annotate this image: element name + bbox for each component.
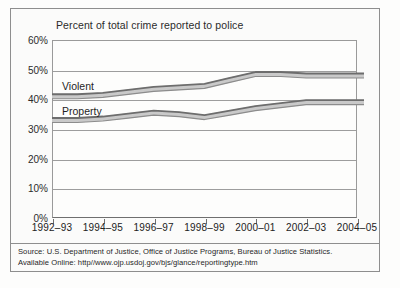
y-axis-tick-label: 40%	[10, 94, 48, 105]
source-line-2: Available Online: http//www.ojp.usdoj.go…	[18, 258, 368, 269]
gridline	[53, 100, 356, 101]
plot-area	[52, 40, 357, 218]
x-axis-tick-label: 1998–99	[184, 222, 224, 233]
x-axis-labels: 1992–931994–951996–971998–992000–012002–…	[0, 222, 400, 238]
x-axis-tick-label: 2000–01	[235, 222, 275, 233]
source-note: Source: U.S. Department of Justice, Offi…	[18, 247, 368, 268]
y-axis-tick-label: 10%	[10, 183, 48, 194]
gridline	[53, 189, 356, 190]
gridline	[53, 130, 356, 131]
x-axis-tick-label: 2004–05	[337, 222, 377, 233]
y-axis-tick-label: 20%	[10, 153, 48, 164]
source-line-1: Source: U.S. Department of Justice, Offi…	[18, 247, 368, 258]
y-axis-tick-label: 60%	[10, 35, 48, 46]
x-axis-tick-label: 2002–03	[286, 222, 326, 233]
x-axis-tick-label: 1992–93	[32, 222, 72, 233]
x-axis-tick-label: 1996–97	[133, 222, 173, 233]
x-axis-tick-label: 1994–95	[83, 222, 123, 233]
y-axis-tick-label: 30%	[10, 124, 48, 135]
y-axis-tick-label: 50%	[10, 64, 48, 75]
chart-title: Percent of total crime reported to polic…	[56, 19, 243, 31]
gridline	[53, 71, 356, 72]
y-axis-labels: 0%10%20%30%40%50%60%	[10, 40, 48, 218]
figure-page: Percent of total crime reported to polic…	[0, 0, 400, 288]
footer-divider	[11, 243, 379, 244]
gridline	[53, 160, 356, 161]
